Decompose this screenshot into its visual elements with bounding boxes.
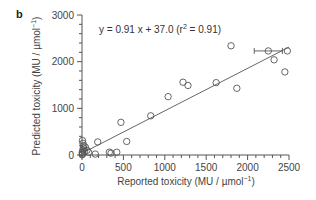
data-point xyxy=(165,93,171,99)
data-point xyxy=(234,85,240,91)
data-point xyxy=(114,149,120,155)
regression-line xyxy=(82,47,289,153)
y-tick-label: 3000 xyxy=(52,10,75,21)
data-point xyxy=(124,138,130,144)
x-tick-label: 0 xyxy=(79,162,85,173)
y-tick-label: 2000 xyxy=(52,56,75,67)
y-tick-label: 1000 xyxy=(52,103,75,114)
y-tick-label: 0 xyxy=(68,150,74,161)
data-point xyxy=(95,139,101,145)
x-tick-label: 2500 xyxy=(278,162,301,173)
x-tick-label: 1000 xyxy=(154,162,177,173)
data-point xyxy=(282,69,288,75)
data-point xyxy=(228,43,234,49)
data-point xyxy=(284,48,290,54)
data-point xyxy=(92,151,98,157)
data-point xyxy=(185,82,191,88)
x-tick-label: 500 xyxy=(115,162,132,173)
x-tick-label: 2000 xyxy=(236,162,259,173)
x-tick-label: 1500 xyxy=(195,162,218,173)
data-point xyxy=(118,119,124,125)
scatter-plot: 010002000300005001000150020002500 xyxy=(0,0,316,200)
data-point xyxy=(271,57,277,63)
